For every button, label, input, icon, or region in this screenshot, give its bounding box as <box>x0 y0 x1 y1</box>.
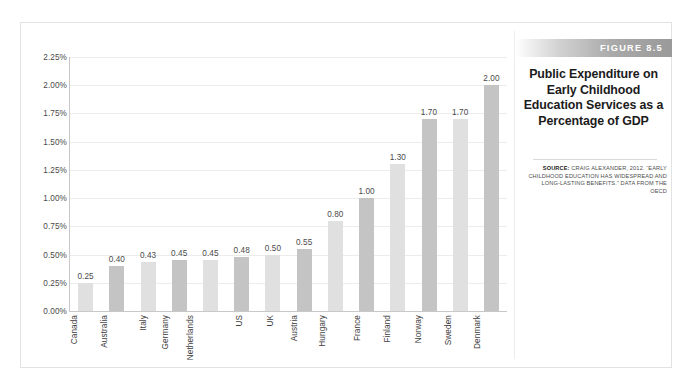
bar[interactable]: 0.25 <box>78 283 93 311</box>
x-axis-slot: France <box>350 313 381 367</box>
bar-slot: 2.00 <box>476 57 507 311</box>
bar[interactable]: 0.55 <box>297 249 312 311</box>
figure-frame: 2.25%2.00%1.75%1.50%1.25%1.00%0.75%0.50%… <box>20 22 672 368</box>
bar-value-label: 0.80 <box>327 210 343 219</box>
bar[interactable]: 0.80 <box>328 221 343 311</box>
y-axis-tick-label: 0.00% <box>23 307 67 316</box>
x-axis-tick-label: Denmark <box>473 315 482 349</box>
figure-source: SOURCE: CRAIG ALEXANDER, 2012. “EARLY CH… <box>525 165 667 195</box>
bar-slot: 0.80 <box>320 57 351 311</box>
bar-slot: 0.40 <box>101 57 132 311</box>
y-axis-tick-label: 1.00% <box>23 194 67 203</box>
y-axis: 2.25%2.00%1.75%1.50%1.25%1.00%0.75%0.50%… <box>21 23 67 367</box>
x-axis-slot: UK <box>256 313 287 367</box>
figure-number-band: FIGURE 8.5 <box>515 39 672 57</box>
x-axis-tick-label: France <box>353 315 362 341</box>
x-axis-slot: Canada <box>69 313 100 367</box>
x-axis-slot: Australia <box>100 313 131 367</box>
bar-value-label: 0.45 <box>202 249 218 258</box>
x-axis-slot: Austria <box>288 313 319 367</box>
y-axis-tick-label: 2.00% <box>23 81 67 90</box>
caption-divider <box>533 159 657 160</box>
x-axis-tick-label: US <box>235 315 244 327</box>
bar-value-label: 0.40 <box>109 255 125 264</box>
figure-title: Public Expenditure on Early Childhood Ed… <box>519 67 668 129</box>
x-axis-tick-label: Germany <box>161 315 170 349</box>
x-axis-tick-label: Canada <box>70 315 79 344</box>
bar-slot: 1.00 <box>351 57 382 311</box>
x-axis-tick-label: UK <box>266 315 275 327</box>
bar-value-label: 0.43 <box>140 251 156 260</box>
bar-slot: 1.30 <box>382 57 413 311</box>
bar[interactable]: 1.30 <box>390 164 405 311</box>
x-axis-tick-label: Finland <box>383 315 392 343</box>
bar[interactable]: 0.48 <box>234 257 249 311</box>
x-axis-slot: Sweden <box>444 313 475 367</box>
x-axis-tick-label: Italy <box>139 315 148 331</box>
bar[interactable]: 0.40 <box>109 266 124 311</box>
bar[interactable]: 0.50 <box>265 255 280 311</box>
bar-slot: 0.48 <box>226 57 257 311</box>
bar[interactable]: 0.43 <box>141 262 156 311</box>
bar-slot: 0.45 <box>164 57 195 311</box>
bar[interactable]: 0.45 <box>203 260 218 311</box>
x-axis-slot: Netherlands <box>194 313 225 367</box>
y-axis-tick-label: 0.75% <box>23 222 67 231</box>
x-axis-tick-label: Australia <box>99 315 108 348</box>
bar-value-label: 0.50 <box>265 244 281 253</box>
bar-slot: 0.50 <box>257 57 288 311</box>
bar-value-label: 2.00 <box>483 74 499 83</box>
figure-number-label: FIGURE 8.5 <box>600 43 672 53</box>
y-axis-tick-label: 1.25% <box>23 165 67 174</box>
figure-caption-panel: FIGURE 8.5 Public Expenditure on Early C… <box>515 23 672 367</box>
bar-value-label: 0.25 <box>77 272 93 281</box>
bar-value-label: 1.30 <box>390 153 406 162</box>
bar-slot: 0.25 <box>70 57 101 311</box>
bar[interactable]: 2.00 <box>484 85 499 311</box>
x-axis-slot: Hungary <box>319 313 350 367</box>
bar[interactable]: 1.70 <box>422 119 437 311</box>
source-label: SOURCE: <box>543 165 570 171</box>
bar-value-label: 1.70 <box>452 108 468 117</box>
bar-slot: 0.55 <box>289 57 320 311</box>
bars-container: 0.250.400.430.450.450.480.500.550.801.00… <box>70 57 507 311</box>
y-axis-tick-label: 0.25% <box>23 278 67 287</box>
x-axis-tick-label: Norway <box>414 315 423 343</box>
y-axis-tick-label: 0.50% <box>23 250 67 259</box>
bar[interactable]: 1.00 <box>359 198 374 311</box>
x-axis-slot: Norway <box>412 313 443 367</box>
bar[interactable]: 0.45 <box>172 260 187 311</box>
y-axis-tick-label: 1.75% <box>23 109 67 118</box>
plot-area: 0.250.400.430.450.450.480.500.550.801.00… <box>69 57 507 312</box>
x-axis-slot: Finland <box>381 313 412 367</box>
x-axis-tick-label: Austria <box>290 315 299 341</box>
x-axis-slot: US <box>225 313 256 367</box>
bar-value-label: 0.48 <box>234 246 250 255</box>
bar-slot: 1.70 <box>445 57 476 311</box>
x-axis-tick-label: Sweden <box>444 315 453 345</box>
bar-value-label: 1.70 <box>421 108 437 117</box>
x-axis: CanadaAustraliaItalyGermanyNetherlandsUS… <box>69 313 506 367</box>
bar-value-label: 1.00 <box>358 187 374 196</box>
bar-slot: 0.43 <box>132 57 163 311</box>
bar-value-label: 0.55 <box>296 238 312 247</box>
x-axis-slot: Denmark <box>475 313 506 367</box>
bar-slot: 0.45 <box>195 57 226 311</box>
x-axis-tick-label: Hungary <box>319 315 328 347</box>
x-axis-slot: Italy <box>131 313 162 367</box>
y-axis-tick-label: 1.50% <box>23 137 67 146</box>
bar[interactable]: 1.70 <box>453 119 468 311</box>
bar-chart: 2.25%2.00%1.75%1.50%1.25%1.00%0.75%0.50%… <box>21 23 514 367</box>
bar-value-label: 0.45 <box>171 249 187 258</box>
y-axis-tick-label: 2.25% <box>23 53 67 62</box>
x-axis-tick-label: Netherlands <box>187 315 196 360</box>
bar-slot: 1.70 <box>413 57 444 311</box>
